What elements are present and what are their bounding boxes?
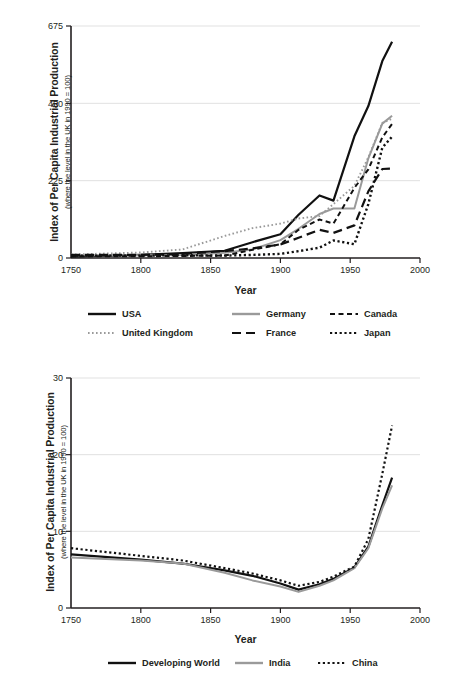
x-tick-label: 1750 [61, 265, 81, 275]
series-line-china [71, 426, 392, 586]
legend-swatch-dotted-bold [330, 328, 358, 338]
x-tick-label: 1900 [270, 615, 290, 625]
series-line-india [71, 485, 392, 592]
x-tick-label: 1950 [340, 615, 360, 625]
legend-row: USAGermanyCanada [0, 304, 453, 323]
legend-swatch-solid [235, 658, 263, 668]
x-tick-label: 1800 [131, 615, 151, 625]
x-tick-label: 1900 [270, 265, 290, 275]
legend-label: Germany [266, 309, 306, 319]
x-tick-label: 2000 [410, 615, 430, 625]
legend-top: USAGermanyCanadaUnited KingdomFranceJapa… [0, 304, 453, 342]
x-axis-label-bottom: Year [71, 633, 420, 645]
legend-item-canada[interactable]: Canada [330, 309, 397, 319]
legend-label: Canada [364, 309, 397, 319]
chart-developing-countries: Index of Per Capita Industrial Productio… [0, 370, 453, 700]
x-tick-label: 1850 [201, 615, 221, 625]
legend-swatch-dash-short [330, 309, 358, 319]
series-line-developing-world [71, 478, 392, 590]
chart-industrialised-countries: Index of Per Capita Industrial Productio… [0, 0, 453, 380]
legend-swatch-dashed [232, 328, 260, 338]
series-line-usa [71, 42, 392, 257]
x-tick-label: 1850 [201, 265, 221, 275]
legend-swatch-dotted-bold [318, 658, 346, 668]
series-line-canada [71, 124, 392, 256]
legend-label: United Kingdom [122, 328, 193, 338]
legend-row: United KingdomFranceJapan [0, 323, 453, 342]
legend-item-france[interactable]: France [232, 328, 296, 338]
legend-label: India [269, 658, 290, 668]
legend-label: Japan [364, 328, 391, 338]
series-line-germany [71, 116, 392, 256]
legend-label: Developing World [142, 658, 220, 668]
legend-label: China [352, 658, 378, 668]
x-tick-label: 2000 [410, 265, 430, 275]
legend-row: Developing WorldIndiaChina [0, 653, 453, 672]
legend-item-india[interactable]: India [235, 658, 290, 668]
legend-item-usa[interactable]: USA [88, 309, 141, 319]
x-axis-label-top: Year [71, 284, 420, 296]
legend-swatch-solid [232, 309, 260, 319]
series-line-united-kingdom [71, 119, 392, 255]
legend-item-germany[interactable]: Germany [232, 309, 306, 319]
legend-swatch-dotted [88, 328, 116, 338]
legend-label: USA [122, 309, 141, 319]
legend-swatch-solid [108, 658, 136, 668]
x-tick-label: 1800 [131, 265, 151, 275]
legend-item-japan[interactable]: Japan [330, 328, 391, 338]
legend-item-developing-world[interactable]: Developing World [108, 658, 220, 668]
legend-label: France [266, 328, 296, 338]
legend-bottom: Developing WorldIndiaChina [0, 653, 453, 672]
legend-item-united-kingdom[interactable]: United Kingdom [88, 328, 193, 338]
legend-swatch-solid [88, 309, 116, 319]
x-tick-label: 1950 [340, 265, 360, 275]
x-tick-label: 1750 [61, 615, 81, 625]
legend-item-china[interactable]: China [318, 658, 378, 668]
y-axis-label-sub-bottom: (where the level in the UK in 1990 = 100… [59, 425, 68, 559]
y-axis-label-sub-top: (where the level in the UK in 1990 = 100… [63, 75, 72, 209]
